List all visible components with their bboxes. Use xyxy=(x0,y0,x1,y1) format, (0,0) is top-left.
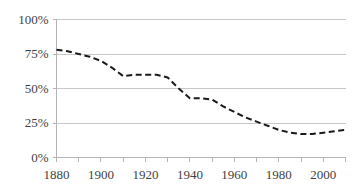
x-tick-label-2000: 2000 xyxy=(298,168,348,181)
x-tick-label-1920: 1920 xyxy=(120,168,170,181)
chart-container: 0%25%50%75%100% 188019001920194019601980… xyxy=(0,0,354,194)
data-series-group xyxy=(57,50,346,134)
data-line-series xyxy=(57,50,346,134)
x-tick-label-1900: 1900 xyxy=(76,168,126,181)
x-tick-label-1880: 1880 xyxy=(32,168,82,181)
line-chart-plot xyxy=(0,0,354,194)
y-tick-marks-group xyxy=(53,20,57,158)
y-tick-label-0: 0% xyxy=(31,151,48,164)
y-tick-label-75: 75% xyxy=(25,47,49,60)
x-tick-label-1980: 1980 xyxy=(254,168,304,181)
x-tick-label-1960: 1960 xyxy=(209,168,259,181)
y-tick-label-25: 25% xyxy=(25,116,49,129)
y-tick-label-100: 100% xyxy=(18,13,48,26)
x-tick-marks-group xyxy=(57,158,346,162)
gridlines-group xyxy=(57,20,346,158)
x-tick-label-1940: 1940 xyxy=(165,168,215,181)
y-tick-label-50: 50% xyxy=(25,82,49,95)
